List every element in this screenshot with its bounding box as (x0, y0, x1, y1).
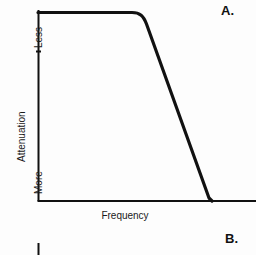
figure-panel-a: Less More Attenuation Frequency A. B. (0, 0, 256, 255)
y-axis-title: Attenuation (16, 111, 27, 162)
panel-label-b: B. (225, 231, 238, 246)
response-curve (38, 13, 212, 202)
y-axis-tick-label-more: More (33, 171, 44, 194)
y-axis-tick-label-less: Less (33, 27, 44, 48)
panel-label-a: A. (221, 3, 234, 18)
x-axis-title: Frequency (38, 210, 212, 221)
